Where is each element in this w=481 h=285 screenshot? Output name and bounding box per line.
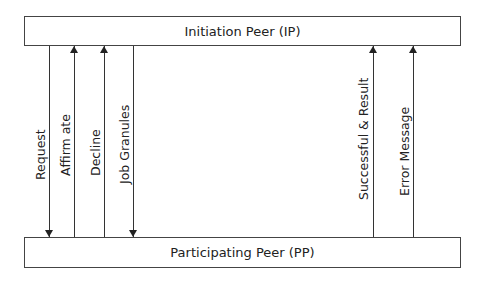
participating-peer-box: Participating Peer (PP) — [24, 237, 461, 268]
participating-peer-label: Participating Peer (PP) — [170, 245, 314, 260]
arrow-down-icon — [45, 230, 53, 237]
arrow-down-icon — [129, 230, 137, 237]
initiation-peer-label: Initiation Peer (IP) — [184, 24, 300, 39]
arrow-up-icon — [369, 46, 377, 53]
successful-result-label: Successful & Result — [357, 78, 371, 200]
arrow-up-icon — [100, 46, 108, 53]
initiation-peer-box: Initiation Peer (IP) — [24, 16, 461, 46]
request-arrow-line — [49, 46, 50, 237]
arrow-up-icon — [70, 46, 78, 53]
affirmate-arrow-line — [74, 46, 75, 237]
successful-result-arrow-line — [373, 46, 374, 237]
error-message-label: Error Message — [398, 107, 412, 196]
request-label: Request — [34, 129, 48, 180]
affirmate-label: Affirm ate — [59, 114, 73, 176]
arrow-up-icon — [409, 46, 417, 53]
decline-label: Decline — [89, 129, 103, 176]
decline-arrow-line — [104, 46, 105, 237]
job-granules-label: Job Granules — [118, 105, 132, 184]
error-message-arrow-line — [413, 46, 414, 237]
job-granules-arrow-line — [133, 46, 134, 237]
